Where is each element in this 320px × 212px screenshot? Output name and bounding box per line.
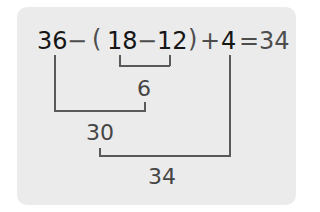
left-paren: ( (92, 27, 101, 51)
equals-sign: = (239, 29, 259, 53)
operand-12: 12 (157, 29, 188, 53)
bracket-step3-bottom (99, 155, 231, 157)
minus-operator-inner: − (137, 29, 157, 53)
minus-operator: − (67, 29, 87, 53)
final-answer: 34 (259, 29, 290, 53)
bracket-step1-bottom (119, 65, 170, 67)
bracket-step2-left (54, 55, 56, 111)
step3-result: 34 (148, 166, 176, 188)
bracket-step3-right (229, 55, 231, 156)
bracket-step2-bottom (54, 110, 146, 112)
operand-36: 36 (37, 29, 68, 53)
plus-operator: + (200, 29, 220, 53)
right-paren: ) (188, 27, 197, 51)
step1-result: 6 (137, 78, 151, 100)
operand-18: 18 (107, 29, 138, 53)
operand-4: 4 (221, 29, 236, 53)
step2-result: 30 (86, 122, 114, 144)
